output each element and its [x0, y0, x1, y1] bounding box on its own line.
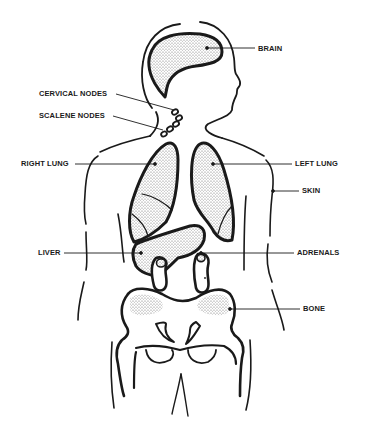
right-lung-organ: [130, 143, 179, 242]
pelvis-bone: [117, 289, 243, 416]
brain-organ: [149, 34, 222, 97]
body-illustration: [0, 0, 366, 429]
leader-lines: [64, 47, 300, 311]
label-adrenals: ADRENALS: [297, 249, 339, 257]
anatomy-diagram: BRAIN CERVICAL NODES SCALENE NODES RIGHT…: [0, 0, 366, 429]
label-bone: BONE: [303, 305, 325, 313]
lymph-nodes: [160, 108, 183, 137]
label-right-lung: RIGHT LUNG: [21, 160, 69, 168]
label-brain: BRAIN: [258, 45, 282, 53]
label-left-lung: LEFT LUNG: [295, 160, 338, 168]
adrenals-organ: [152, 254, 209, 293]
label-skin: SKIN: [302, 187, 320, 195]
label-scalene-nodes: SCALENE NODES: [39, 112, 105, 120]
label-cervical-nodes: CERVICAL NODES: [39, 90, 107, 98]
label-liver: LIVER: [38, 249, 61, 257]
